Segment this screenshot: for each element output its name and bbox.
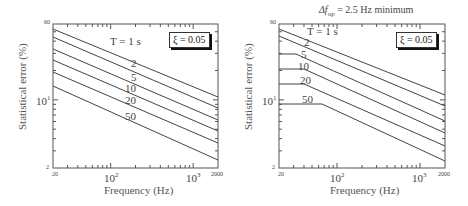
x-tick-1000-exp: 3 <box>423 171 427 179</box>
curve-label-t1: T = 1 s <box>307 26 338 37</box>
x-tick-1000: 103 <box>412 171 427 184</box>
legend-box: ξ = 0.05 <box>169 32 210 48</box>
y-axis-label: Statistical error (%) <box>16 43 28 130</box>
y-tick-mid: 101 <box>36 94 51 107</box>
x-tick-100-base: 10 <box>330 172 341 184</box>
x-tick-2000: 2000 <box>438 171 450 177</box>
y-tick-top: 60 <box>270 19 276 25</box>
x-tick-100-exp: 2 <box>115 171 119 179</box>
title-delta-f: Δf <box>319 4 328 15</box>
x-tick-1000-base: 10 <box>186 172 197 184</box>
curve-label-t20: 20 <box>125 95 136 106</box>
curve-label-t10: 10 <box>125 83 136 94</box>
x-tick-2000: 2000 <box>211 171 223 177</box>
x-axis-label: Frequency (Hz) <box>104 184 173 196</box>
curve-label-t5: 5 <box>301 49 307 60</box>
x-tick-1000-base: 10 <box>412 172 423 184</box>
y-tick-bottom: 2 <box>272 164 275 170</box>
curve-label-t2: 2 <box>304 37 310 48</box>
x-tick-20: 20 <box>52 171 58 177</box>
x-tick-100: 102 <box>104 171 119 184</box>
right-chart: Δfop = 2.5 Hz minimum 60 101 2 20 102 10… <box>234 0 468 206</box>
y-tick-mid-base: 10 <box>36 95 47 107</box>
y-tick-mid: 101 <box>262 94 277 107</box>
chart-title: Δfop = 2.5 Hz minimum <box>319 4 413 18</box>
curve-label-t50: 50 <box>125 111 136 122</box>
x-axis-label: Frequency (Hz) <box>330 184 399 196</box>
y-tick-bottom: 2 <box>46 164 49 170</box>
title-rest: = 2.5 Hz minimum <box>335 4 414 15</box>
curve-label-t2: 2 <box>131 58 137 69</box>
y-tick-mid-exp: 1 <box>47 94 51 102</box>
left-chart: 60 101 2 20 102 103 2000 Frequency (Hz) … <box>0 0 234 206</box>
curve-label-t1: T = 1 s <box>110 36 141 47</box>
x-tick-20: 20 <box>278 171 284 177</box>
x-tick-1000-exp: 3 <box>197 171 201 179</box>
y-tick-mid-exp: 1 <box>273 94 277 102</box>
curve-label-t10: 10 <box>298 61 309 72</box>
title-subscript: op <box>328 10 335 18</box>
x-tick-100-exp: 2 <box>341 171 345 179</box>
legend-box: ξ = 0.05 <box>396 32 437 48</box>
y-tick-mid-base: 10 <box>262 95 273 107</box>
curve-label-t50: 50 <box>302 94 313 105</box>
y-axis-label: Statistical error (%) <box>242 43 254 130</box>
x-tick-100: 102 <box>330 171 345 184</box>
x-tick-100-base: 10 <box>104 172 115 184</box>
y-tick-top: 60 <box>44 19 50 25</box>
curve-label-t20: 20 <box>300 75 311 86</box>
x-tick-1000: 103 <box>186 171 201 184</box>
